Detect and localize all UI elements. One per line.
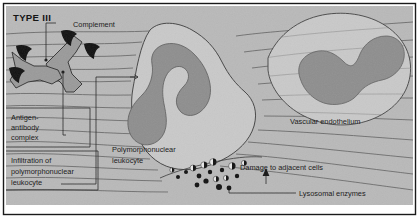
illustration-content: TYPE III Complement Antigen- antibody co… <box>6 6 415 205</box>
paper-grain-overlay <box>6 6 413 205</box>
illustration-canvas: TYPE III Complement Antigen- antibody co… <box>0 0 419 218</box>
type-iii-hypersensitivity-figure: TYPE III Complement Antigen- antibody co… <box>0 0 419 218</box>
